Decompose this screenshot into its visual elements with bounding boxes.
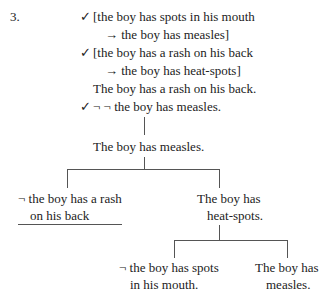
left-branch-text-cont: on his back [30, 209, 89, 223]
sub-left-text-cont: in his mouth. [130, 278, 198, 292]
left-branch-line [67, 169, 68, 188]
closed-branch-marker [18, 224, 122, 225]
item-number: 3. [10, 10, 20, 24]
sub-stem-line [219, 225, 220, 240]
right-branch-text: The boy has [197, 192, 261, 206]
premise-2-cont: → the boy has heat-spots] [105, 64, 241, 78]
sub-right-line [287, 240, 288, 258]
premise-1-cont: → the boy has measles] [105, 28, 229, 42]
check-icon: ✓ [80, 46, 91, 60]
premise-1: [the boy has spots in his mouth [93, 10, 255, 24]
right-branch-text-cont: heat-spots. [207, 209, 263, 223]
right-branch-line [219, 169, 220, 188]
tree-trunk-line [144, 117, 145, 135]
sub-left-text: ¬ the boy has spots [119, 261, 219, 275]
sub-right-text-cont: measles. [266, 278, 310, 292]
left-branch-text: ¬ the boy has a rash [18, 192, 122, 206]
tree-node-measles: The boy has measles. [93, 140, 204, 154]
premise-2: [the boy has a rash on his back [93, 46, 253, 60]
branch-bar [67, 169, 219, 170]
sub-right-text: The boy has [255, 261, 319, 275]
premise-3: The boy has a rash on his back. [93, 82, 256, 96]
negated-conclusion: ¬ ¬ the boy has measles. [93, 100, 221, 114]
sub-left-line [174, 240, 175, 258]
check-icon: ✓ [80, 10, 91, 24]
tree-stem-line [144, 157, 145, 169]
sub-branch-bar [174, 240, 288, 241]
check-icon: ✓ [80, 100, 91, 114]
